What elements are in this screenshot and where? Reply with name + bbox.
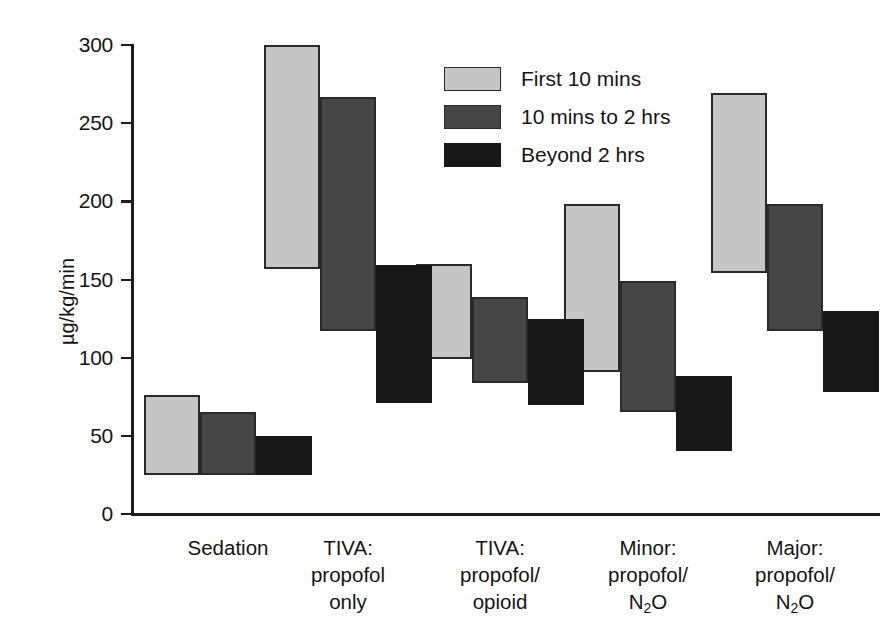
legend-item-0: First 10 mins	[444, 62, 670, 95]
y-tick-250	[121, 122, 132, 124]
y-tick-label: 250	[0, 112, 113, 133]
bar-4-1	[767, 204, 823, 331]
y-tick-label: 50	[0, 425, 113, 446]
y-tick-100	[121, 357, 132, 359]
y-tick-200	[121, 200, 132, 202]
y-tick-label-wrap: 50	[0, 425, 113, 447]
y-tick-label: 0	[0, 503, 113, 524]
y-tick-label-wrap: 250	[0, 112, 113, 134]
y-tick-label-wrap: 100	[0, 347, 113, 369]
subscript-2: 2	[791, 600, 799, 616]
legend-label: 10 mins to 2 hrs	[521, 105, 670, 129]
chart-root: µg/kg/min 300250200150100500 SedationTIV…	[0, 0, 895, 640]
legend: First 10 mins10 mins to 2 hrsBeyond 2 hr…	[444, 62, 670, 176]
bar-0-0	[144, 395, 200, 475]
x-axis-label-4: Major:propofol/N2O	[705, 534, 885, 622]
y-tick-label: 300	[0, 34, 113, 55]
bar-3-1	[620, 281, 676, 412]
bar-2-2	[528, 319, 584, 405]
y-tick-label: 100	[0, 347, 113, 368]
bar-2-1	[472, 297, 528, 383]
subscript-2: 2	[644, 600, 652, 616]
bar-4-0	[711, 93, 767, 273]
legend-item-2: Beyond 2 hrs	[444, 138, 670, 171]
legend-item-1: 10 mins to 2 hrs	[444, 100, 670, 133]
y-tick-label-wrap: 300	[0, 34, 113, 56]
legend-label: First 10 mins	[521, 67, 641, 91]
x-axis-label-line: propofol/	[705, 561, 885, 588]
bar-1-2	[376, 265, 432, 403]
y-tick-label-wrap: 200	[0, 190, 113, 212]
bar-3-2	[676, 376, 732, 451]
bar-1-0	[264, 45, 320, 269]
y-tick-300	[121, 44, 132, 46]
legend-swatch-icon	[444, 143, 501, 167]
x-axis-label-line: Major:	[705, 534, 885, 561]
y-tick-label: 150	[0, 269, 113, 290]
legend-swatch-icon	[444, 67, 501, 91]
bar-4-2	[823, 311, 879, 392]
y-tick-label-wrap: 150	[0, 269, 113, 291]
y-tick-label-wrap: 0	[0, 503, 113, 525]
legend-label: Beyond 2 hrs	[521, 143, 645, 167]
y-tick-0	[121, 513, 132, 515]
y-tick-50	[121, 435, 132, 437]
y-tick-150	[121, 279, 132, 281]
x-axis-label-line: N2O	[705, 588, 885, 622]
bar-1-1	[320, 97, 376, 332]
y-tick-label: 200	[0, 190, 113, 211]
bar-0-2	[256, 436, 312, 475]
bar-0-1	[200, 412, 256, 475]
legend-swatch-icon	[444, 105, 501, 129]
